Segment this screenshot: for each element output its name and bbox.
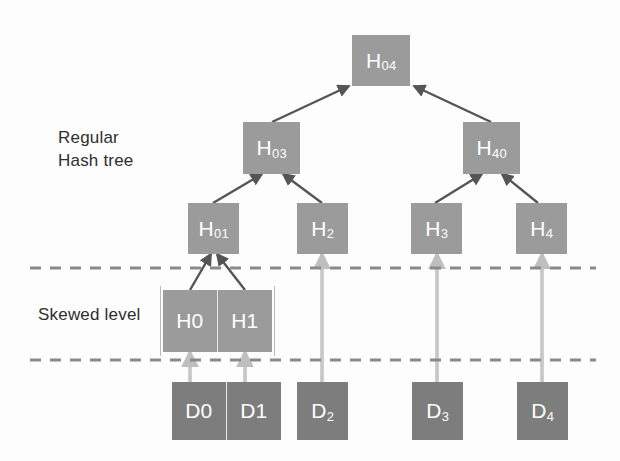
tree-edge-group-level2: [213, 174, 538, 203]
node-d0-base: D: [185, 399, 200, 423]
node-d0-subscript: 0: [200, 399, 212, 423]
diagram-canvas: Regular Hash tree Skewed level H04 H03 H…: [0, 0, 620, 461]
node-h4-subscript: 4: [546, 226, 554, 241]
tree-edge-group-root: [272, 86, 491, 122]
node-h03[interactable]: H03: [243, 122, 300, 174]
node-h40-subscript: 40: [492, 146, 507, 161]
node-d2-subscript: 2: [327, 409, 335, 424]
data-node-pair: D0 D1: [172, 382, 281, 440]
node-h3-subscript: 3: [441, 226, 449, 241]
node-h1-subscript: 1: [246, 309, 258, 333]
node-h01[interactable]: H01: [188, 203, 239, 254]
node-d0[interactable]: D0: [172, 382, 226, 440]
node-h04[interactable]: H04: [352, 35, 410, 86]
edge-h40-to-h04: [414, 86, 491, 122]
node-h2-base: H: [311, 217, 326, 241]
skewed-level-node-pair: H0 H1: [163, 290, 272, 352]
node-h03-subscript: 03: [272, 146, 287, 161]
edge-h01-to-h03: [213, 174, 262, 203]
node-h4[interactable]: H4: [516, 203, 567, 254]
node-h3-base: H: [425, 217, 440, 241]
edge-h2-to-h03: [283, 174, 322, 203]
node-h2[interactable]: H2: [297, 203, 348, 254]
node-h03-base: H: [256, 136, 271, 160]
edge-h0-to-h01: [190, 254, 211, 290]
node-h2-subscript: 2: [327, 226, 335, 241]
node-h4-base: H: [530, 217, 545, 241]
node-h40-base: H: [476, 136, 491, 160]
node-h0-base: H: [176, 309, 191, 333]
node-h1[interactable]: H1: [217, 290, 273, 352]
edge-h3-to-h40: [435, 174, 482, 203]
node-d2-base: D: [311, 399, 326, 423]
tree-edge-group-skewed: [190, 254, 245, 290]
node-h0-subscript: 0: [191, 309, 203, 333]
node-d3[interactable]: D3: [412, 382, 463, 440]
node-h3[interactable]: H3: [411, 203, 462, 254]
label-regular-hash-tree: Regular Hash tree: [58, 126, 134, 172]
node-h1-base: H: [231, 309, 246, 333]
node-h40[interactable]: H40: [463, 122, 520, 174]
node-d3-subscript: 3: [442, 409, 450, 424]
node-d1-base: D: [240, 399, 255, 423]
edge-h03-to-h04: [272, 86, 349, 122]
node-d4-base: D: [531, 399, 546, 423]
node-d3-base: D: [426, 399, 441, 423]
node-d1[interactable]: D1: [226, 382, 282, 440]
node-d2[interactable]: D2: [297, 382, 348, 440]
node-h0[interactable]: H0: [163, 290, 217, 352]
edge-h1-to-h01: [217, 254, 245, 290]
label-skewed-level: Skewed level: [38, 303, 141, 326]
node-d4[interactable]: D4: [517, 382, 568, 440]
node-d1-subscript: 1: [255, 399, 267, 423]
node-h04-subscript: 04: [382, 58, 397, 73]
node-d4-subscript: 4: [547, 409, 555, 424]
node-h01-subscript: 01: [214, 226, 229, 241]
node-h01-base: H: [198, 217, 213, 241]
edge-h4-to-h40: [502, 174, 538, 203]
node-h04-base: H: [366, 49, 381, 73]
